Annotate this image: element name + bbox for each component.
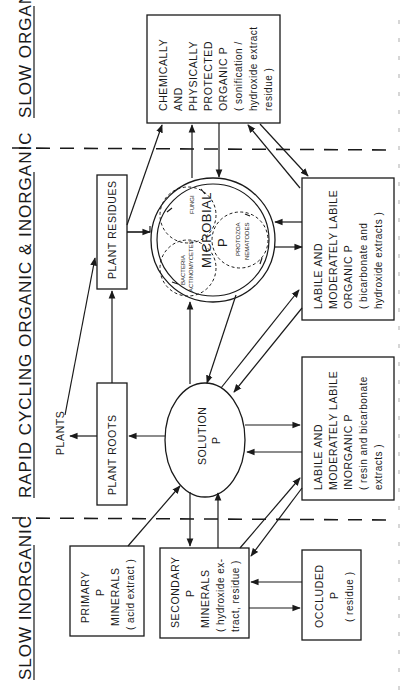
heading-slow-inorganic: SLOW INORGANIC <box>16 515 35 680</box>
node-secondary-p-minerals: SECONDARY P MINERALS ( hydroxide ex- tra… <box>160 548 249 638</box>
svg-text:LABILE AND: LABILE AND <box>312 424 324 490</box>
svg-text:hydroxide extracts ): hydroxide extracts ) <box>373 212 384 309</box>
node-microbial-p: MICROBIAL P FUNGI BACTERIA ACTINOMYCETES… <box>151 178 275 302</box>
svg-text:MICROBIAL: MICROBIAL <box>199 192 214 268</box>
svg-text:PHYSICALLY: PHYSICALLY <box>187 41 199 111</box>
svg-text:MINERALS: MINERALS <box>199 570 211 628</box>
svg-text:( sonification /: ( sonification / <box>233 41 244 111</box>
svg-text:PRIMARY: PRIMARY <box>79 571 91 623</box>
svg-text:PROTECTED: PROTECTED <box>202 41 214 111</box>
svg-text:BACTERIA: BACTERIA <box>180 255 186 285</box>
svg-text:PLANT RESIDUES: PLANT RESIDUES <box>106 180 118 279</box>
svg-text:( acid extract ): ( acid extract ) <box>125 559 136 630</box>
node-primary-p-minerals: PRIMARY P MINERALS ( acid extract ) <box>70 546 144 636</box>
svg-text:ACTINOMYCETES: ACTINOMYCETES <box>188 240 194 292</box>
node-occluded-p: OCCLUDED P ( residue ) <box>302 550 361 640</box>
svg-text:P: P <box>184 589 196 597</box>
node-plant-residues: PLANT RESIDUES <box>97 175 127 289</box>
svg-text:tract, residue ): tract, residue ) <box>230 560 241 632</box>
svg-text:residue ): residue ) <box>263 68 274 111</box>
svg-text:SLOW ORGANIC: SLOW ORGANIC <box>16 0 35 118</box>
svg-text:INORGANIC P: INORGANIC P <box>342 414 354 490</box>
node-plant-roots: PLANT ROOTS <box>97 383 127 505</box>
svg-text:( residue ): ( residue ) <box>344 571 355 622</box>
svg-text:CHEMICALLY: CHEMICALLY <box>157 39 169 111</box>
plants-label: PLANTS <box>54 411 66 455</box>
svg-text:P: P <box>328 591 340 599</box>
svg-text:P: P <box>94 588 106 596</box>
svg-text:SLOW INORGANIC: SLOW INORGANIC <box>16 515 35 680</box>
svg-text:OCCLUDED: OCCLUDED <box>313 564 325 628</box>
svg-text:( hydroxide ex-: ( hydroxide ex- <box>215 558 226 632</box>
heading-slow-organic: SLOW ORGANIC <box>16 0 35 118</box>
svg-text:( resin and bicarbonate: ( resin and bicarbonate <box>358 376 369 490</box>
svg-text:SECONDARY: SECONDARY <box>169 556 181 628</box>
node-solution-p: SOLUTION P <box>165 383 245 497</box>
svg-text:hydroxide extract: hydroxide extract <box>248 26 259 111</box>
svg-text:P: P <box>215 238 230 247</box>
zone-divider-top <box>12 148 396 150</box>
svg-text:P: P <box>210 436 222 444</box>
svg-text:SOLUTION: SOLUTION <box>196 407 208 465</box>
svg-text:RAPID CYCLING ORGANIC & INORGA: RAPID CYCLING ORGANIC & INORGANIC <box>16 132 35 498</box>
node-protected-organic-p: CHEMICALLY AND PHYSICALLY PROTECTED ORGA… <box>147 15 280 123</box>
svg-text:ORGANIC P: ORGANIC P <box>217 47 229 111</box>
node-labile-organic-p: LABILE AND MODERATELY LABILE ORGANIC P (… <box>302 178 394 320</box>
svg-text:LABILE AND: LABILE AND <box>312 243 324 309</box>
phosphorus-cycle-diagram: SLOW ORGANIC RAPID CYCLING ORGANIC & INO… <box>0 0 403 693</box>
heading-rapid-cycling: RAPID CYCLING ORGANIC & INORGANIC <box>16 132 35 498</box>
svg-text:NEMATODES: NEMATODES <box>244 223 250 260</box>
svg-text:PROTOZOA: PROTOZOA <box>235 222 241 256</box>
svg-text:AND: AND <box>172 87 184 111</box>
zone-divider-bottom <box>12 518 396 520</box>
svg-text:MODERATELY LABILE: MODERATELY LABILE <box>327 190 339 309</box>
svg-text:( bicarbonate and: ( bicarbonate and <box>358 223 369 309</box>
svg-text:extracts ): extracts ) <box>373 444 384 490</box>
svg-text:MODERATELY LABILE: MODERATELY LABILE <box>327 371 339 490</box>
svg-text:PLANT ROOTS: PLANT ROOTS <box>106 414 118 495</box>
svg-text:MINERALS: MINERALS <box>109 568 121 626</box>
node-labile-inorganic-p: LABILE AND MODERATELY LABILE INORGANIC P… <box>302 357 394 500</box>
svg-text:FUNGI: FUNGI <box>189 195 195 214</box>
svg-text:ORGANIC P: ORGANIC P <box>342 245 354 309</box>
